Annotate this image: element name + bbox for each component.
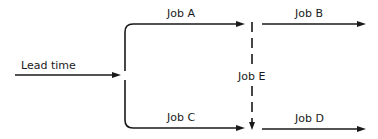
job-c-label: Job C [166,111,195,124]
job-b-label: Job B [294,7,323,20]
job-b-arrow [262,21,366,27]
lead-time-label: Lead time [21,59,76,72]
flow-diagram: Lead time Job A Job C Job E Job B Job D [0,0,378,139]
job-d-arrow [262,126,366,132]
lead-time-arrow [15,72,121,78]
job-e-label: Job E [237,70,265,83]
job-d-label: Job D [294,112,324,125]
job-a-label: Job A [166,7,195,20]
